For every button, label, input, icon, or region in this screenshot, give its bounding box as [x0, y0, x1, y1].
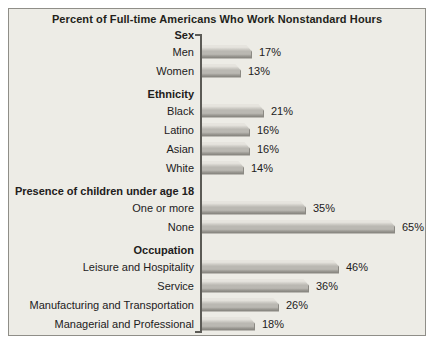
value-label: 21%	[271, 105, 293, 117]
bar-area: 17%	[202, 42, 425, 61]
category-label: One or more	[9, 202, 202, 214]
category-label: Men	[9, 46, 202, 58]
bar-area: 14%	[202, 158, 425, 177]
bar-row: Women13%	[9, 61, 425, 80]
bar	[202, 45, 252, 59]
bar	[202, 220, 395, 234]
bar-area: 18%	[202, 314, 425, 333]
bar-area: 36%	[202, 276, 425, 295]
figure-page: Percent of Full-time Americans Who Work …	[0, 0, 435, 346]
group-row: Sex	[9, 29, 425, 42]
category-label: Asian	[9, 143, 202, 155]
group-label: Ethnicity	[9, 88, 202, 101]
value-label: 36%	[316, 280, 338, 292]
bar-row: Service36%	[9, 276, 425, 295]
bar-area: 35%	[202, 198, 425, 217]
bar	[202, 104, 264, 118]
value-label: 17%	[259, 46, 281, 58]
group-row: Ethnicity	[9, 88, 425, 101]
bar	[202, 260, 339, 274]
bar-row: Latino16%	[9, 120, 425, 139]
bar-area: 13%	[202, 61, 425, 80]
value-label: 35%	[313, 202, 335, 214]
group-row: Occupation	[9, 244, 425, 257]
bar	[202, 161, 244, 175]
bar	[202, 142, 250, 156]
bar-area: 21%	[202, 101, 425, 120]
category-label: Service	[9, 280, 202, 292]
bar-row: Asian16%	[9, 139, 425, 158]
bar-area: 26%	[202, 295, 425, 314]
chart-panel: Percent of Full-time Americans Who Work …	[8, 8, 426, 336]
bar-row: None65%	[9, 217, 425, 236]
bar	[202, 279, 309, 293]
category-label: Latino	[9, 124, 202, 136]
bar-area: 46%	[202, 257, 425, 276]
chart-title: Percent of Full-time Americans Who Work …	[9, 12, 425, 27]
bar-row: Men17%	[9, 42, 425, 61]
bar	[202, 201, 306, 215]
bar	[202, 317, 255, 331]
rows: SexMen17%Women13%EthnicityBlack21%Latino…	[9, 29, 425, 333]
category-label: White	[9, 162, 202, 174]
bar-row: Managerial and Professional18%	[9, 314, 425, 333]
category-label: Manufacturing and Transportation	[9, 299, 202, 311]
value-label: 16%	[257, 143, 279, 155]
bar-area: 65%	[202, 217, 425, 236]
category-label: Leisure and Hospitality	[9, 261, 202, 273]
bar-row: Manufacturing and Transportation26%	[9, 295, 425, 314]
category-label: Black	[9, 105, 202, 117]
bar-row: Black21%	[9, 101, 425, 120]
bar-row: White14%	[9, 158, 425, 177]
value-label: 13%	[248, 65, 270, 77]
value-label: 14%	[251, 162, 273, 174]
bar	[202, 298, 279, 312]
value-label: 65%	[402, 221, 424, 233]
value-label: 26%	[286, 299, 308, 311]
bar-area: 16%	[202, 120, 425, 139]
category-label: Managerial and Professional	[9, 318, 202, 330]
category-label: None	[9, 221, 202, 233]
bar	[202, 123, 250, 137]
bar-area: 16%	[202, 139, 425, 158]
value-label: 46%	[346, 261, 368, 273]
group-label: Occupation	[9, 244, 202, 257]
group-label: Sex	[9, 29, 202, 42]
group-row: Presence of children under age 18	[9, 185, 425, 198]
group-label: Presence of children under age 18	[9, 185, 202, 198]
bar	[202, 64, 241, 78]
bar-row: One or more35%	[9, 198, 425, 217]
bar-row: Leisure and Hospitality46%	[9, 257, 425, 276]
value-label: 16%	[257, 124, 279, 136]
category-label: Women	[9, 65, 202, 77]
value-label: 18%	[262, 318, 284, 330]
